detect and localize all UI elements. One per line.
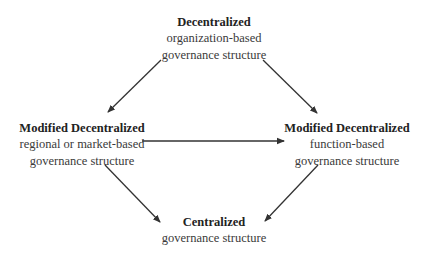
node-title: Modified Decentralized bbox=[284, 120, 409, 136]
arrow-left-to-bottom bbox=[105, 165, 160, 222]
node-title: Centralized bbox=[162, 214, 266, 230]
node-subtitle: governance structure bbox=[162, 47, 266, 64]
node-centralized: Centralized governance structure bbox=[162, 214, 266, 247]
node-subtitle: function-based bbox=[284, 136, 409, 153]
arrow-top-to-right bbox=[263, 60, 317, 113]
arrow-top-to-left bbox=[108, 60, 161, 112]
arrow-right-to-bottom bbox=[265, 165, 318, 221]
node-subtitle: governance structure bbox=[284, 153, 409, 170]
node-subtitle: governance structure bbox=[19, 153, 144, 170]
node-decentralized: Decentralized organization-based governa… bbox=[162, 14, 266, 63]
node-modified-decentralized-regional: Modified Decentralized regional or marke… bbox=[19, 120, 144, 169]
node-subtitle: regional or market-based bbox=[19, 136, 144, 153]
node-title: Modified Decentralized bbox=[19, 120, 144, 136]
node-subtitle: organization-based bbox=[162, 30, 266, 47]
node-subtitle: governance structure bbox=[162, 230, 266, 247]
node-title: Decentralized bbox=[162, 14, 266, 30]
node-modified-decentralized-function: Modified Decentralized function-based go… bbox=[284, 120, 409, 169]
